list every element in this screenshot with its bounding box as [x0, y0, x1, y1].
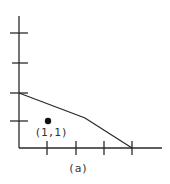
axes — [10, 16, 162, 155]
point-marker — [45, 118, 51, 124]
diagram: (1,1) (a) — [0, 0, 170, 184]
point-label: (1,1) — [34, 126, 67, 139]
figure-caption: (a) — [68, 162, 88, 175]
constraint-boundary-line — [19, 93, 132, 148]
